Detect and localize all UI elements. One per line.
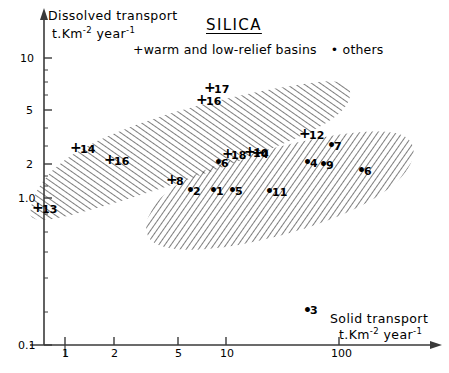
data-point-label: 9 bbox=[326, 159, 334, 172]
data-point-label: 12 bbox=[309, 129, 324, 142]
y-unit-exp1: -2 bbox=[83, 25, 92, 35]
data-point-label: 1 bbox=[216, 185, 224, 198]
x-tick-label-100: 100 bbox=[331, 347, 352, 360]
x-axis-title-line1: Solid transport bbox=[330, 311, 428, 326]
y-unit-prefix: t.Km bbox=[52, 26, 83, 41]
data-point-label: 13 bbox=[42, 203, 57, 216]
data-point-label: 14 bbox=[80, 143, 95, 156]
data-point-label: 6 bbox=[364, 165, 372, 178]
legend-label-others: others bbox=[343, 42, 384, 57]
data-point-label: 16 bbox=[114, 155, 129, 168]
x-axis-title-line2: t.Km-2 year-1 bbox=[339, 326, 422, 342]
y-tick-label-2: 2 bbox=[26, 158, 33, 171]
y-tick-label-5: 5 bbox=[26, 104, 33, 117]
data-point-label: 8 bbox=[176, 175, 184, 188]
x-unit-mid: year bbox=[379, 327, 413, 342]
data-point-label: 3 bbox=[310, 304, 318, 317]
y-tick-label-10: 10 bbox=[20, 52, 34, 65]
data-point-label: 7 bbox=[334, 140, 342, 153]
data-point-label: 16 bbox=[206, 95, 221, 108]
x-tick-label-1: 1 bbox=[62, 347, 69, 360]
y-unit-exp2: -1 bbox=[126, 25, 135, 35]
data-point-label: 11 bbox=[272, 186, 287, 199]
chart-title: SILICA bbox=[206, 16, 262, 34]
legend-label-warm: warm and low-relief basins bbox=[144, 42, 317, 57]
x-unit-prefix: t.Km bbox=[339, 327, 370, 342]
x-tick-label-2: 2 bbox=[111, 347, 118, 360]
y-tick-label-0-1: 0.1 bbox=[18, 339, 36, 352]
y-unit-mid: year bbox=[92, 26, 126, 41]
y-axis-title-line2: t.Km-2 year-1 bbox=[52, 25, 135, 41]
legend-marker-plus: + bbox=[133, 42, 144, 57]
data-point-label: 4 bbox=[310, 157, 318, 170]
x-tick-label-5: 5 bbox=[175, 347, 182, 360]
y-axis-title-line1: Dissolved transport bbox=[48, 8, 178, 23]
x-unit-exp2: -1 bbox=[413, 326, 422, 336]
data-point-label: 2 bbox=[193, 185, 201, 198]
x-tick-label-10: 10 bbox=[220, 347, 234, 360]
silica-scatter-figure: SILICA +warm and low-relief basins• othe… bbox=[0, 0, 449, 373]
data-point-label: 6 bbox=[221, 157, 229, 170]
data-point-label: 17 bbox=[214, 83, 229, 96]
chart-legend: +warm and low-relief basins• others bbox=[133, 42, 384, 57]
legend-marker-dot: • bbox=[331, 42, 339, 57]
x-unit-exp1: -2 bbox=[370, 326, 379, 336]
data-point-label: 4 bbox=[261, 148, 269, 161]
data-point-label: 5 bbox=[235, 185, 243, 198]
